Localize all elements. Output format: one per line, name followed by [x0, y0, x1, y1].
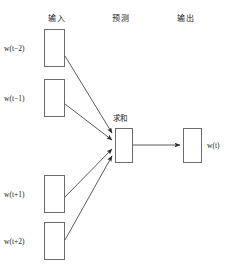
edge-input-1-to-sum: [65, 56, 112, 133]
column-header-output: 输出: [177, 12, 194, 23]
column-header-input: 输入: [48, 12, 65, 23]
input-node-box-3: [44, 175, 65, 213]
column-header-prediction: 预测: [112, 12, 129, 23]
input-node-box-1: [44, 29, 65, 67]
output-node-label: w(t): [207, 141, 220, 150]
input-node-box-4: [44, 222, 65, 260]
edge-input-4-to-sum: [65, 156, 112, 240]
neural-network-diagram: 输入 预测 输出 w(t−2) w(t−1) w(t+1) w(t+2) 求和 …: [0, 0, 233, 279]
edge-input-2-to-sum: [65, 104, 112, 140]
input-node-label-3: w(t+1): [4, 190, 24, 199]
input-node-label-2: w(t−1): [4, 94, 24, 103]
output-node-box: [183, 128, 202, 163]
sum-node-box: [115, 128, 133, 163]
input-node-label-4: w(t+2): [4, 237, 24, 246]
input-node-label-1: w(t−2): [4, 44, 24, 53]
sum-node-label: 求和: [113, 112, 127, 123]
input-node-box-2: [44, 79, 65, 117]
edge-input-3-to-sum: [65, 149, 112, 197]
